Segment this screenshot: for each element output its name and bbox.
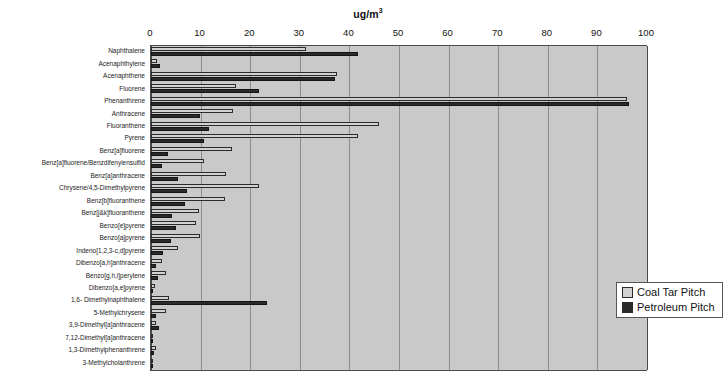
bar-petroleum-pitch xyxy=(151,214,172,218)
bar-petroleum-pitch xyxy=(151,77,335,81)
y-axis-label: Anthracene xyxy=(112,110,145,118)
bar-petroleum-pitch xyxy=(151,52,358,56)
bar-petroleum-pitch xyxy=(151,264,156,268)
bar-coal-tar-pitch xyxy=(151,296,169,300)
bar-coal-tar-pitch xyxy=(151,221,196,225)
bar-row xyxy=(151,171,647,183)
bar-petroleum-pitch xyxy=(151,226,176,230)
bar-petroleum-pitch xyxy=(151,251,163,255)
x-tick-label: 100 xyxy=(638,27,654,38)
bar-coal-tar-pitch xyxy=(151,284,155,288)
chart-title: ug/m3 xyxy=(25,7,711,20)
bar-petroleum-pitch xyxy=(151,139,204,143)
bar-coal-tar-pitch xyxy=(151,259,162,263)
x-tick-label: 10 xyxy=(194,27,205,38)
bar-row xyxy=(151,158,647,170)
bar-coal-tar-pitch xyxy=(151,147,232,151)
bar-petroleum-pitch xyxy=(151,127,209,131)
y-axis-label: Benzo[g,h,i]perylene xyxy=(86,272,145,280)
x-tick-label: 90 xyxy=(591,27,602,38)
y-axis-category-labels: NaphthaleneAcenaphthyleneAcenaphtheneFlu… xyxy=(0,45,148,369)
bar-coal-tar-pitch xyxy=(151,346,156,350)
bar-petroleum-pitch xyxy=(151,102,629,106)
bar-coal-tar-pitch xyxy=(151,84,236,88)
bar-coal-tar-pitch xyxy=(151,309,166,313)
bar-rows xyxy=(151,46,647,370)
y-axis-label: Naphthalene xyxy=(108,47,145,55)
bar-coal-tar-pitch xyxy=(151,209,199,213)
bar-row xyxy=(151,333,647,345)
bar-petroleum-pitch xyxy=(151,339,153,343)
bar-petroleum-pitch xyxy=(151,189,187,193)
bar-row xyxy=(151,358,647,370)
bar-row xyxy=(151,258,647,270)
chart-legend: Coal Tar PitchPetroleum Pitch xyxy=(616,282,723,318)
legend-label: Petroleum Pitch xyxy=(637,301,715,314)
legend-item: Petroleum Pitch xyxy=(622,301,715,314)
x-tick-label: 0 xyxy=(147,27,152,38)
legend-label: Coal Tar Pitch xyxy=(637,286,705,299)
y-axis-label: 5-Methylchrysene xyxy=(94,309,145,317)
bar-coal-tar-pitch xyxy=(151,122,379,126)
bar-petroleum-pitch xyxy=(151,202,185,206)
legend-item: Coal Tar Pitch xyxy=(622,286,715,299)
bar-row xyxy=(151,233,647,245)
bar-petroleum-pitch xyxy=(151,301,267,305)
x-tick-label: 80 xyxy=(542,27,553,38)
x-tick-label: 30 xyxy=(294,27,305,38)
bar-coal-tar-pitch xyxy=(151,172,226,176)
x-tick-label: 70 xyxy=(492,27,503,38)
bar-petroleum-pitch xyxy=(151,177,178,181)
bar-petroleum-pitch xyxy=(151,326,159,330)
bar-row xyxy=(151,283,647,295)
bar-row xyxy=(151,183,647,195)
y-axis-label: Dibenzo[a,e]pyrene xyxy=(89,284,145,292)
bar-petroleum-pitch xyxy=(151,152,168,156)
y-axis-label: Phenanthrene xyxy=(104,97,145,105)
bar-row xyxy=(151,108,647,120)
chart-title-exponent: 3 xyxy=(379,7,383,14)
y-axis-label: Dibenzo[a,h]anthracene xyxy=(76,259,145,267)
y-axis-label: Indeno[1,2,3-c,d]pyrene xyxy=(76,247,145,255)
y-axis-label: Fluoranthene xyxy=(107,122,145,130)
bar-row xyxy=(151,96,647,108)
chart-title-text: ug/m xyxy=(353,8,378,20)
y-axis-label: Fluorene xyxy=(119,85,145,93)
bar-coal-tar-pitch xyxy=(151,321,156,325)
bar-row xyxy=(151,295,647,307)
bar-row xyxy=(151,46,647,58)
y-axis-label: Benzo[a]pyrene xyxy=(99,234,145,242)
y-axis-label: Benz[a]fluorene/Benzdifenylensulfid xyxy=(42,159,145,167)
bar-row xyxy=(151,220,647,232)
bar-row xyxy=(151,58,647,70)
bar-row xyxy=(151,196,647,208)
bar-petroleum-pitch xyxy=(151,289,153,293)
bar-coal-tar-pitch xyxy=(151,184,259,188)
bar-row xyxy=(151,320,647,332)
bar-petroleum-pitch xyxy=(151,114,200,118)
y-axis-label: 3-Methylcholanthrene xyxy=(82,359,145,367)
plot-area: Coal Tar PitchPetroleum Pitch xyxy=(150,45,647,371)
bar-petroleum-pitch xyxy=(151,364,153,368)
bar-row xyxy=(151,133,647,145)
y-axis-label: Chrysene/4,5-Dimethylpyrene xyxy=(59,184,145,192)
y-axis-label: 1,6- Dimethylnaphthalene xyxy=(71,296,145,304)
y-axis-label: 7,12-Dimethyl[a]anthracene xyxy=(65,334,145,342)
bar-row xyxy=(151,345,647,357)
y-axis-label: Acenaphthylene xyxy=(98,60,145,68)
bar-petroleum-pitch xyxy=(151,239,171,243)
legend-swatch-petro xyxy=(622,302,633,313)
gridline xyxy=(647,46,648,370)
bar-row xyxy=(151,308,647,320)
y-axis-label: Pyrene xyxy=(124,134,145,142)
x-tick-label: 20 xyxy=(244,27,255,38)
y-axis-label: Benz[j&k]fluoranthene xyxy=(81,209,145,217)
bar-coal-tar-pitch xyxy=(151,334,153,338)
bar-coal-tar-pitch xyxy=(151,234,200,238)
bar-row xyxy=(151,83,647,95)
bar-coal-tar-pitch xyxy=(151,59,157,63)
bar-petroleum-pitch xyxy=(151,164,162,168)
bar-coal-tar-pitch xyxy=(151,47,306,51)
bar-coal-tar-pitch xyxy=(151,72,337,76)
y-axis-label: Acenaphthene xyxy=(103,72,145,80)
